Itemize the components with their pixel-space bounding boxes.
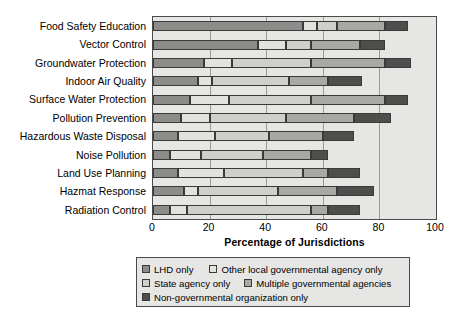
category-label: Pollution Prevention <box>53 109 146 127</box>
legend-item: Multiple governmental agencies <box>244 278 391 289</box>
bar-segment <box>170 205 187 215</box>
category-label: Surface Water Protection <box>29 90 146 108</box>
legend-label: Multiple governmental agencies <box>256 278 391 289</box>
bar-segment <box>311 95 385 105</box>
bar-segment <box>385 58 410 68</box>
bar-segment <box>198 76 212 86</box>
legend-row-1: LHD onlyOther local governmental agency … <box>142 262 404 276</box>
bar-segment <box>311 40 359 50</box>
bar-segment <box>181 113 209 123</box>
bar-segment <box>153 205 170 215</box>
bar-segment <box>311 58 385 68</box>
x-tick-label: 80 <box>373 221 385 234</box>
bar-segment <box>184 186 198 196</box>
bar-row <box>153 150 436 160</box>
category-label: Food Safety Education <box>40 17 146 35</box>
bar-segment <box>229 95 311 105</box>
bar-row <box>153 205 436 215</box>
bar-segment <box>190 95 230 105</box>
bar-segment <box>258 40 286 50</box>
bar-row <box>153 21 436 31</box>
bar-segment <box>323 131 354 141</box>
bar-segment <box>187 205 312 215</box>
legend-row-3: Non-governmental organization only <box>142 290 404 304</box>
bar-segment <box>153 131 178 141</box>
bar-segment <box>286 40 311 50</box>
bar-segment <box>170 150 201 160</box>
x-tick-label: 0 <box>149 221 155 234</box>
legend-label: Non-governmental organization only <box>154 292 308 303</box>
bar-segment <box>385 95 408 105</box>
bar-segment <box>337 21 385 31</box>
legend-item: State agency only <box>142 278 230 289</box>
bar-segment <box>178 168 223 178</box>
bar-segment <box>311 205 328 215</box>
legend-label: State agency only <box>154 278 230 289</box>
bar-segment <box>201 150 263 160</box>
category-label: Groundwater Protection <box>35 54 146 72</box>
bar-segment <box>354 113 391 123</box>
bar-row <box>153 40 436 50</box>
bar-segment <box>337 186 374 196</box>
legend-item: Non-governmental organization only <box>142 292 308 303</box>
legend-item: LHD only <box>142 264 193 275</box>
bar-segment <box>311 150 328 160</box>
bar-segment <box>286 113 354 123</box>
bar-segment <box>303 21 317 31</box>
bar-segment <box>317 21 337 31</box>
x-tick-label: 20 <box>203 221 215 234</box>
bar-segment <box>212 76 288 86</box>
bar-segment <box>289 76 329 86</box>
bar-segment <box>153 40 258 50</box>
bar-segment <box>153 186 184 196</box>
category-label: Noise Pollution <box>76 146 146 164</box>
bar-segment <box>215 131 269 141</box>
bar-segment <box>210 113 286 123</box>
legend-swatch-icon <box>142 293 150 301</box>
category-label: Radiation Control <box>65 201 146 219</box>
category-label: Vector Control <box>79 35 146 53</box>
stacked-bar-chart: Food Safety EducationVector ControlGroun… <box>0 0 469 317</box>
legend-row-2: State agency onlyMultiple governmental a… <box>142 276 404 290</box>
legend-item: Other local governmental agency only <box>209 264 382 275</box>
bar-row <box>153 58 436 68</box>
bar-segment <box>198 186 277 196</box>
chart-legend: LHD onlyOther local governmental agency … <box>136 257 410 307</box>
bar-segment <box>328 76 362 86</box>
bar-row <box>153 186 436 196</box>
bar-segment <box>269 131 323 141</box>
bar-series-container <box>153 17 436 219</box>
x-tick-label: 40 <box>259 221 271 234</box>
legend-label: LHD only <box>154 264 193 275</box>
bar-segment <box>232 58 311 68</box>
bar-segment <box>263 150 311 160</box>
bar-segment <box>153 76 198 86</box>
x-axis-title: Percentage of Jurisdictions <box>152 236 437 248</box>
bar-segment <box>328 205 359 215</box>
bar-segment <box>328 168 359 178</box>
category-label: Hazardous Waste Disposal <box>20 127 146 145</box>
x-tick-label: 60 <box>316 221 328 234</box>
bar-row <box>153 95 436 105</box>
legend-swatch-icon <box>244 279 252 287</box>
bar-row <box>153 131 436 141</box>
bar-segment <box>224 168 303 178</box>
bar-row <box>153 76 436 86</box>
category-label: Indoor Air Quality <box>65 72 146 90</box>
bar-segment <box>204 58 232 68</box>
bar-segment <box>153 21 303 31</box>
bar-segment <box>303 168 328 178</box>
bar-segment <box>153 113 181 123</box>
bar-segment <box>153 95 190 105</box>
bar-segment <box>153 58 204 68</box>
legend-swatch-icon <box>209 265 217 273</box>
category-axis-labels: Food Safety EducationVector ControlGroun… <box>0 17 150 219</box>
bar-segment <box>178 131 215 141</box>
bar-segment <box>153 168 178 178</box>
category-label: Hazmat Response <box>60 182 146 200</box>
bar-segment <box>385 21 408 31</box>
bar-segment <box>278 186 337 196</box>
bar-segment <box>360 40 385 50</box>
bar-row <box>153 113 436 123</box>
legend-swatch-icon <box>142 279 150 287</box>
